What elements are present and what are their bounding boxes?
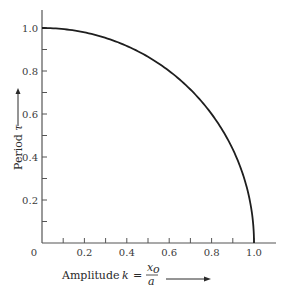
x-tick-label: 0.8: [204, 247, 220, 258]
x-tick-label: 1.0: [246, 247, 262, 258]
x-axis-label: Amplitude k = x o a: [61, 261, 211, 288]
y-axis-label: Period τ: [12, 88, 25, 170]
y-tick-label: 0.8: [22, 66, 38, 77]
y-tick-label: 0.2: [22, 195, 38, 206]
x-tick-label: 0.2: [76, 247, 92, 258]
y-ticks: 0.20.40.60.81.0: [22, 23, 47, 222]
x-ticks: 00.20.40.60.81.0: [31, 238, 262, 258]
x-tick-label: 0.4: [119, 247, 135, 258]
svg-text:Amplitude: Amplitude: [61, 269, 120, 282]
y-tick-label: 0.6: [22, 109, 38, 120]
x-tick-label: 0: [31, 247, 37, 258]
data-curve: [42, 28, 254, 243]
svg-text:a: a: [148, 275, 155, 288]
svg-text:k: k: [122, 269, 129, 282]
chart: 0.20.40.60.81.0 00.20.40.60.81.0 Period …: [0, 0, 285, 290]
y-tick-label: 1.0: [22, 23, 38, 34]
x-tick-label: 0.6: [161, 247, 177, 258]
svg-text:Period τ: Period τ: [12, 124, 25, 170]
svg-text:=: =: [133, 269, 142, 282]
